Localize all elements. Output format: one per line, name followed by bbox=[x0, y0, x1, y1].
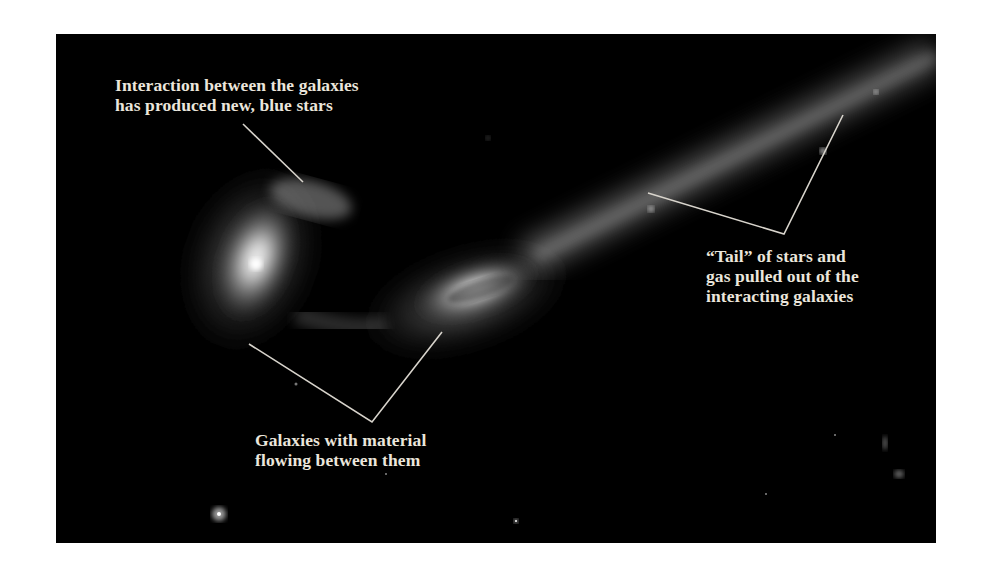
annotation-line: “Tail” of stars and bbox=[706, 246, 859, 266]
annotation-line: gas pulled out of the bbox=[706, 266, 859, 286]
annotation-material-flow: Galaxies with material flowing between t… bbox=[255, 430, 426, 470]
annotation-line: has produced new, blue stars bbox=[115, 95, 359, 115]
annotation-line: Interaction between the galaxies bbox=[115, 75, 359, 95]
tidal-tail bbox=[526, 54, 936, 259]
annotation-line: flowing between them bbox=[255, 450, 426, 470]
annotation-line: interacting galaxies bbox=[706, 286, 859, 306]
left-galaxy bbox=[149, 136, 356, 381]
galaxy-photograph: Interaction between the galaxies has pro… bbox=[56, 34, 936, 543]
annotation-tail: “Tail” of stars and gas pulled out of th… bbox=[706, 246, 859, 306]
annotation-blue-stars: Interaction between the galaxies has pro… bbox=[115, 75, 359, 115]
annotation-line: Galaxies with material bbox=[255, 430, 426, 450]
